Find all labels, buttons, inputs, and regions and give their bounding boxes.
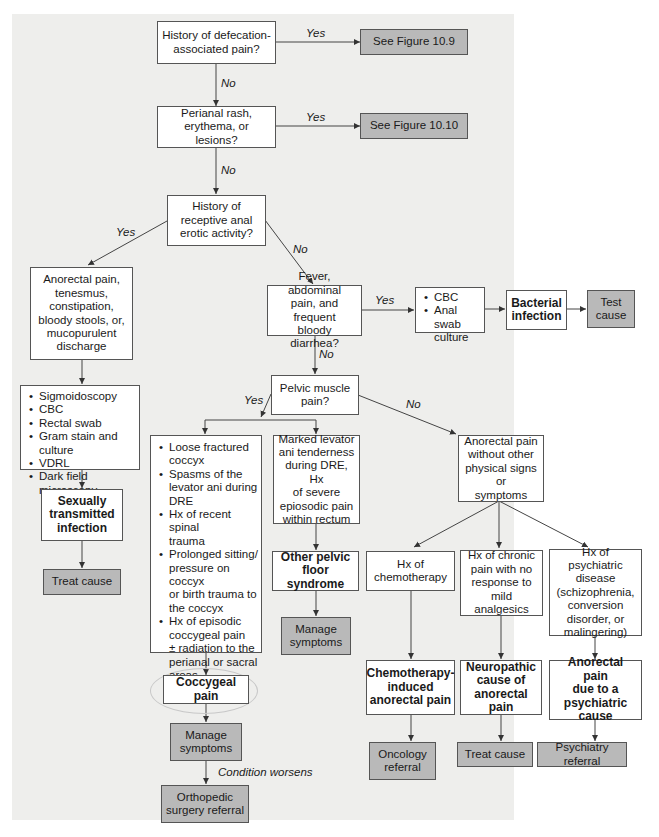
test-item: Anal swab culture (434, 304, 482, 344)
tests-sti-workup[interactable]: Sigmoidoscopy CBC Rectal swab Gram stain… (20, 385, 140, 470)
question-fever-bloody-diarrhea[interactable]: Fever, abdominal pain, and frequent bloo… (267, 285, 362, 336)
edge-label-no: No (319, 348, 334, 360)
diagnosis-neuropathic[interactable]: Neuropathic cause of anorectal pain (460, 660, 542, 715)
tests-bacterial-workup[interactable]: CBC Anal swab culture (415, 287, 485, 333)
terminal-treat-cause-neuro[interactable]: Treat cause (457, 742, 533, 767)
diagnosis-other-pelvic-floor[interactable]: Other pelvic floor syndrome (272, 551, 359, 591)
test-item: VDRL (39, 457, 137, 470)
terminal-treat-cause-sti[interactable]: Treat cause (43, 569, 121, 595)
test-item: Gram stain and culture (39, 430, 137, 457)
history-psychiatric[interactable]: Hx of psychiatric disease (schizophrenia… (549, 549, 642, 636)
terminal-test-cause[interactable]: Test cause (587, 290, 635, 328)
diagnosis-bacterial-infection[interactable]: Bacterial infection (506, 290, 567, 330)
terminal-manage-symptoms-pelvic[interactable]: Manage symptoms (281, 617, 351, 655)
sign-item: Hx of episodic coccygeal pain ± radiatio… (169, 615, 259, 682)
edge-label-yes: Yes (375, 294, 394, 306)
question-pelvic-muscle-pain[interactable]: Pelvic muscle pain? (271, 375, 359, 415)
edge-label-no: No (221, 164, 236, 176)
test-item: CBC (434, 291, 482, 304)
sign-item: Prolonged sitting/ pressure on coccyx or… (169, 548, 259, 615)
sign-item: Spasms of the levator ani during DRE (169, 468, 259, 508)
terminal-see-figure-10-9[interactable]: See Figure 10.9 (360, 29, 468, 55)
signs-levator-tenderness[interactable]: Marked levator ani tenderness during DRE… (273, 435, 360, 524)
symptoms-anorectal-discharge[interactable]: Anorectal pain, tenesmus, constipation, … (30, 267, 133, 360)
edge-label-condition-worsens: Condition worsens (218, 766, 313, 778)
diagnosis-chemo-induced[interactable]: Chemotherapy- induced anorectal pain (366, 660, 455, 715)
question-perianal-rash[interactable]: Perianal rash, erythema, or lesions? (157, 106, 276, 148)
edge-label-yes: Yes (306, 27, 325, 39)
terminal-psychiatry-referral[interactable]: Psychiatry referral (537, 742, 627, 767)
edge-label-yes: Yes (116, 226, 135, 238)
question-receptive-anal-activity[interactable]: History of receptive anal erotic activit… (167, 195, 266, 246)
history-chronic-pain[interactable]: Hx of chronic pain with no response to m… (460, 550, 543, 616)
history-chemotherapy[interactable]: Hx of chemotherapy (366, 551, 455, 591)
test-item: Rectal swab (39, 417, 137, 430)
diagnosis-sti[interactable]: Sexually transmitted infection (41, 489, 123, 541)
terminal-manage-symptoms-coccyx[interactable]: Manage symptoms (170, 723, 242, 761)
terminal-oncology-referral[interactable]: Oncology referral (369, 742, 436, 780)
terminal-see-figure-10-10[interactable]: See Figure 10.10 (360, 113, 468, 139)
edge-label-no: No (221, 77, 236, 89)
signs-coccyx[interactable]: Loose fractured coccyx Spasms of the lev… (150, 435, 262, 653)
test-item: CBC (39, 403, 137, 416)
diagnosis-psychiatric-cause[interactable]: Anorectal pain due to a psychiatric caus… (549, 660, 642, 720)
terminal-orthopedic-referral[interactable]: Orthopedic surgery referral (161, 785, 249, 823)
edge-label-no: No (406, 398, 421, 410)
diagnosis-coccygeal-pain[interactable]: Coccygeal pain (163, 675, 249, 704)
test-item: Sigmoidoscopy (39, 390, 137, 403)
edge-label-no: No (293, 243, 308, 255)
sign-item: Hx of recent spinal trauma (169, 508, 259, 548)
edge-label-yes: Yes (244, 394, 263, 406)
sign-item: Loose fractured coccyx (169, 441, 259, 468)
finding-no-physical-signs[interactable]: Anorectal pain without other physical si… (458, 435, 544, 502)
question-defecation-pain[interactable]: History of defecation- associated pain? (157, 21, 276, 64)
edge-label-yes: Yes (306, 111, 325, 123)
